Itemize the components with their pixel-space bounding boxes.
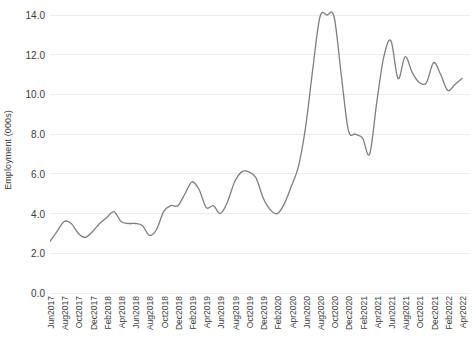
y-tick-label: 2.0 — [12, 248, 50, 259]
y-tick-label: 14.0 — [12, 10, 50, 21]
x-tick-label: Dec2019 — [260, 296, 269, 330]
x-tick-label: Feb2019 — [189, 296, 198, 330]
employment-line-chart: Employment (000s) 14.012.010.08.06.04.02… — [0, 0, 474, 358]
x-tick-label: Apr2022 — [459, 296, 468, 328]
x-tick-label: Feb2018 — [104, 296, 113, 330]
y-tick-label: 8.0 — [12, 129, 50, 140]
y-tick-label: 12.0 — [12, 49, 50, 60]
x-axis-tick-labels: Jun2017Aug2017Oct2017Dec2017Feb2018Apr20… — [50, 296, 470, 358]
x-tick-label: Jun2018 — [132, 296, 141, 329]
x-tick-label: Dec2018 — [175, 296, 184, 330]
y-tick-label: 6.0 — [12, 168, 50, 179]
x-tick-label: Jun2017 — [47, 296, 56, 329]
x-tick-label: Aug2018 — [146, 296, 155, 330]
y-tick-label: 4.0 — [12, 208, 50, 219]
x-tick-label: Aug2020 — [317, 296, 326, 330]
x-tick-label: Apr2018 — [118, 296, 127, 328]
x-tick-label: Apr2020 — [289, 296, 298, 328]
x-tick-label: Oct2018 — [161, 296, 170, 328]
x-tick-label: Jun2019 — [217, 296, 226, 329]
x-tick-label: Oct2019 — [246, 296, 255, 328]
y-axis-tick-labels: 14.012.010.08.06.04.02.00.0 — [12, 0, 50, 358]
x-tick-label: Dec2021 — [431, 296, 440, 330]
x-tick-label: Aug2017 — [61, 296, 70, 330]
x-tick-label: Feb2020 — [274, 296, 283, 330]
y-tick-label: 10.0 — [12, 89, 50, 100]
x-tick-label: Oct2020 — [331, 296, 340, 328]
x-tick-label: Dec2020 — [345, 296, 354, 330]
x-tick-label: Dec2017 — [90, 296, 99, 330]
x-tick-label: Aug2021 — [402, 296, 411, 330]
x-tick-label: Apr2021 — [374, 296, 383, 328]
x-tick-label: Oct2021 — [416, 296, 425, 328]
x-tick-label: Feb2022 — [445, 296, 454, 330]
x-tick-label: Oct2017 — [75, 296, 84, 328]
y-tick-label: 0.0 — [12, 288, 50, 299]
x-tick-label: Feb2021 — [360, 296, 369, 330]
x-tick-label: Jun2020 — [303, 296, 312, 329]
x-tick-label: Apr2019 — [203, 296, 212, 328]
x-tick-label: Aug2019 — [232, 296, 241, 330]
x-tick-label: Jun2021 — [388, 296, 397, 329]
